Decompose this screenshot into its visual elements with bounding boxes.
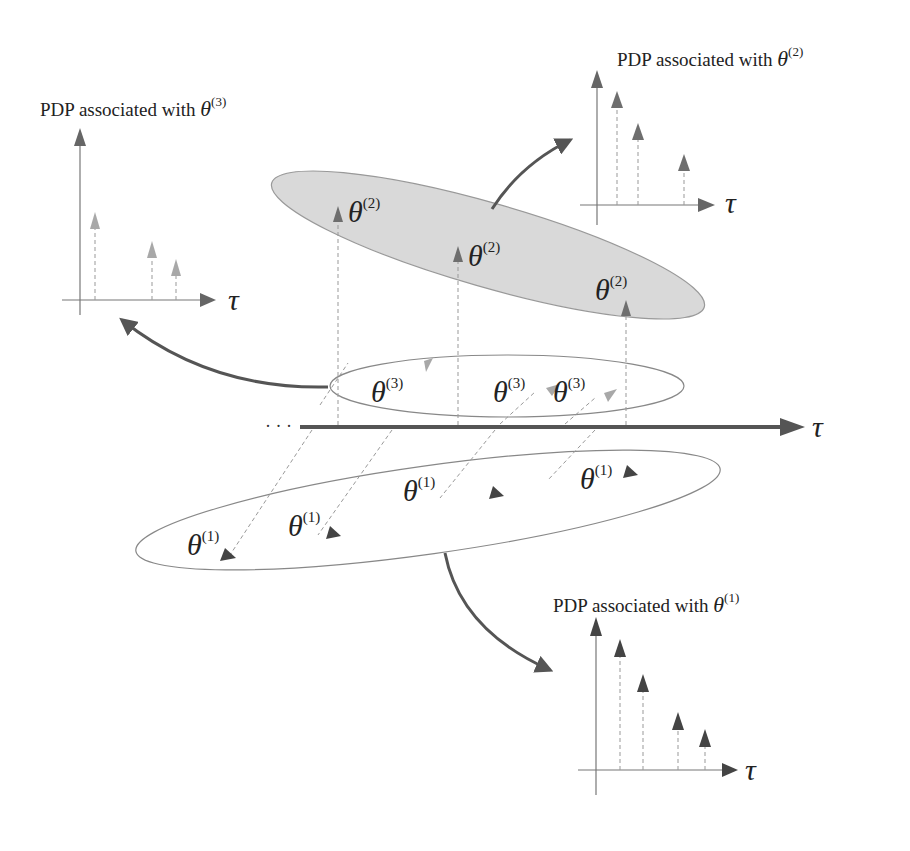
svg-text:τ: τ xyxy=(228,283,240,316)
svg-text:θ(1): θ(1) xyxy=(580,462,612,495)
channel-cluster-diagram: · · · τ θ(2) θ(2) θ(2) θ(3) θ(3) θ(3) θ(… xyxy=(0,0,910,851)
arrow-to-pdp1 xyxy=(445,553,550,670)
pdp-plot-theta2: PDP associated with θ(2) τ xyxy=(580,44,803,225)
pdp-plot-theta1: PDP associated with θ(1) τ xyxy=(553,590,757,795)
pdp-plot-theta3: PDP associated with θ(3) τ xyxy=(40,94,240,316)
svg-text:τ: τ xyxy=(725,186,737,219)
cluster-1-labels: θ(1) θ(1) θ(1) θ(1) xyxy=(187,462,612,561)
svg-text:PDP associated with θ(2): PDP associated with θ(2) xyxy=(617,44,803,71)
main-tau-label: τ xyxy=(812,410,824,443)
svg-text:PDP associated with θ(3): PDP associated with θ(3) xyxy=(40,94,226,121)
svg-text:θ(3): θ(3) xyxy=(493,375,525,408)
arrow-to-pdp3 xyxy=(122,320,328,387)
svg-text:θ(3): θ(3) xyxy=(553,375,585,408)
cluster-3-labels: θ(3) θ(3) θ(3) xyxy=(371,375,585,408)
svg-text:θ(1): θ(1) xyxy=(403,474,435,507)
svg-text:τ: τ xyxy=(745,753,757,786)
arrow-to-pdp2 xyxy=(492,140,570,209)
cluster-1-ellipse xyxy=(130,425,727,594)
svg-text:PDP associated with θ(1): PDP associated with θ(1) xyxy=(553,590,739,617)
svg-text:θ(1): θ(1) xyxy=(288,509,320,542)
svg-text:θ(1): θ(1) xyxy=(187,528,219,561)
svg-text:θ(3): θ(3) xyxy=(371,375,403,408)
axis-ellipsis: · · · xyxy=(265,416,292,436)
